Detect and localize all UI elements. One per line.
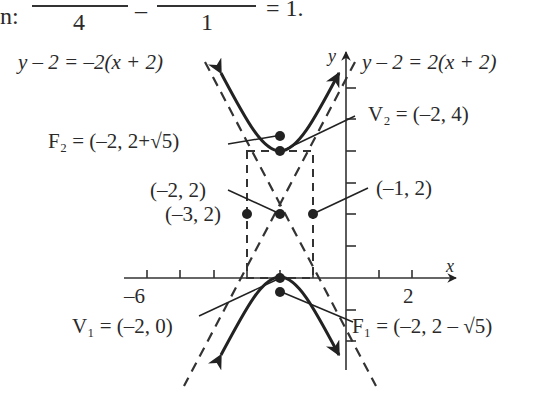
header-prefix: n: [0,4,19,28]
focus-2-point [275,131,285,141]
header-denominator-2: 1 [201,10,213,34]
right-point [308,209,318,219]
center-label: (–2, 2) [150,180,206,201]
x-axis [124,270,456,278]
vertex-1-label: V₁ = (–2, 0) [72,316,173,337]
header-minus: – [135,0,147,22]
header-rhs: = 1. [266,0,304,20]
header-denominator-1: 4 [73,10,85,34]
left-point [242,209,252,219]
x-axis-label: x [446,257,454,275]
leader-vertex-1 [199,280,276,316]
vertex-1-point [275,273,285,283]
leader-vertex-2 [284,116,355,150]
tick-label-neg6: –6 [124,286,145,307]
vertex-2-point [275,146,285,156]
asymptote-right-label: y – 2 = 2(x + 2) [362,52,496,73]
asymptote-left-label: y – 2 = –2(x + 2) [18,52,163,73]
tick-label-2: 2 [403,286,414,307]
leader-focus-2 [228,136,276,144]
y-axis-label: y [328,47,336,65]
vertex-2-label: V₂ = (–2, 4) [368,104,469,125]
right-point-label: (–1, 2) [376,178,432,199]
focus-1-label: F₁ = (–2, 2 – √5) [352,316,492,337]
leader-center [228,190,276,212]
focus-2-label: F₂ = (–2, 2+√5) [48,131,179,152]
focus-1-point [275,287,285,297]
leader-right-point [317,188,368,212]
center-point [275,209,285,219]
left-point-label: (–3, 2) [165,204,221,225]
